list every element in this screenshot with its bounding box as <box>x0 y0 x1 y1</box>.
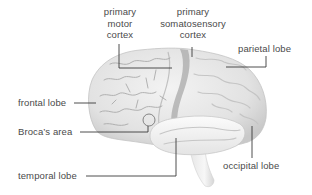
label-line: motor <box>100 18 140 30</box>
label-line: cortex <box>157 29 229 41</box>
label-line: primary <box>157 6 229 18</box>
label-temporal-lobe: temporal lobe <box>18 170 77 182</box>
temporal-lobe <box>150 116 245 155</box>
label-primary-somatosensory-cortex: primary somatosensory cortex <box>157 6 229 41</box>
brain-stem <box>190 150 214 187</box>
label-line: somatosensory <box>157 18 229 30</box>
label-brocas-area: Broca’s area <box>18 126 72 138</box>
label-frontal-lobe: frontal lobe <box>18 97 66 109</box>
label-line: primary <box>100 6 140 18</box>
label-occipital-lobe: occipital lobe <box>223 160 279 172</box>
label-parietal-lobe: parietal lobe <box>238 43 291 55</box>
label-line: cortex <box>100 29 140 41</box>
label-primary-motor-cortex: primary motor cortex <box>100 6 140 41</box>
